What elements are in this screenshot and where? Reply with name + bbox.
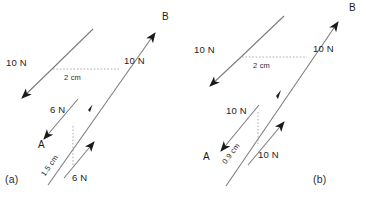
point-label-a-b: A: [203, 152, 210, 162]
dimension-label-2cm-a: 2 cm: [64, 74, 81, 82]
panel-a-vector-graphics: [0, 0, 183, 198]
force-label-lower-left-a: 6 N: [50, 105, 65, 115]
panel-b-vector-graphics: [183, 0, 366, 198]
force-label-upper-left-b: 10 N: [194, 45, 215, 55]
force-label-lower-left-b: 10 N: [226, 106, 247, 116]
force-label-lower-right-b: 10 N: [258, 150, 279, 160]
force-label-upper-right-a: 10 N: [124, 56, 145, 66]
force-label-lower-right-a: 6 N: [72, 173, 87, 183]
dimension-label-2cm-b: 2 cm: [253, 62, 270, 70]
panel-a: 10 N 10 N B 2 cm 6 N A 1.5 cm 6 N (a): [0, 0, 183, 198]
panel-caption-a: (a): [5, 174, 18, 185]
midline-direction-tick-b: [276, 90, 281, 99]
force-label-upper-right-b: 10 N: [313, 44, 334, 54]
force-label-upper-left-a: 10 N: [6, 58, 27, 68]
upper-force-line-b: [210, 16, 284, 86]
panel-b: 10 N 10 N B 2 cm 10 N A 0.9 cm 10 N (b): [183, 0, 366, 198]
panel-caption-b: (b): [313, 174, 326, 185]
midline-direction-tick-a: [88, 105, 93, 113]
upper-force-line-a: [22, 29, 93, 98]
point-label-b-a: B: [162, 12, 169, 22]
point-label-a-a: A: [38, 140, 45, 150]
point-label-b-b: B: [349, 3, 356, 13]
figure-root: 10 N 10 N B 2 cm 6 N A 1.5 cm 6 N (a): [0, 0, 366, 198]
